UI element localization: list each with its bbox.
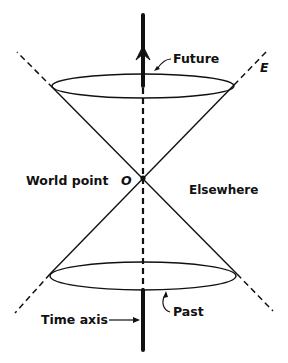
label-origin-o: O <box>121 173 132 188</box>
future-pointer-icon <box>157 59 171 69</box>
label-past: Past <box>173 304 204 319</box>
world-point-dot <box>140 175 145 180</box>
label-edge-e: E <box>260 60 269 75</box>
label-world-point: World point <box>26 173 108 188</box>
time-axis-pointer-head-icon <box>133 317 140 323</box>
past-pointer-head-icon <box>163 291 168 298</box>
past-cone-ellipse <box>50 262 236 290</box>
light-cone-diagram: Future E World point O Elsewhere Past Ti… <box>0 0 288 363</box>
label-elsewhere: Elsewhere <box>189 183 258 197</box>
label-future: Future <box>173 51 219 66</box>
label-time-axis: Time axis <box>41 312 108 327</box>
